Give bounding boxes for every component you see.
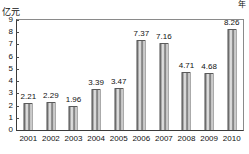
bar-value-label: 7.37 <box>134 30 150 38</box>
y-tick-label: 6 <box>1 53 13 61</box>
bar <box>137 40 146 130</box>
bar-slot: 3.39 <box>85 20 108 130</box>
bar-value-label: 2.21 <box>21 93 37 101</box>
bar <box>205 73 214 130</box>
bar-value-label: 4.71 <box>179 62 195 70</box>
bar-slot: 7.16 <box>153 20 176 130</box>
x-tick-label: 2001 <box>17 134 40 143</box>
y-tick-label: 4 <box>1 77 13 85</box>
y-tick-label: 9 <box>1 16 13 24</box>
bar-slot: 2.29 <box>40 20 63 130</box>
bar <box>24 103 33 130</box>
bar-series: 2.212.291.963.393.477.377.164.714.688.26 <box>17 20 243 130</box>
bar-slot: 8.26 <box>220 20 243 130</box>
bar-slot: 3.47 <box>107 20 130 130</box>
bar <box>69 106 78 130</box>
bar-value-label: 3.47 <box>111 78 127 86</box>
bar-slot: 2.21 <box>17 20 40 130</box>
x-tick-label: 2008 <box>175 134 198 143</box>
bar-chart: 亿元 0123456789 2.212.291.963.393.477.377.… <box>0 0 249 154</box>
x-tick-label: 2002 <box>40 134 63 143</box>
bar-value-label: 8.26 <box>224 19 240 27</box>
bar-slot: 4.68 <box>198 20 221 130</box>
bar <box>182 72 191 130</box>
x-tick-label: 2003 <box>62 134 85 143</box>
x-tick-label: 2007 <box>153 134 176 143</box>
y-tick-label: 7 <box>1 40 13 48</box>
x-tick-label: 2005 <box>107 134 130 143</box>
bar <box>114 88 123 130</box>
bar-value-label: 7.16 <box>156 33 172 41</box>
bar-slot: 1.96 <box>62 20 85 130</box>
bar <box>92 89 101 130</box>
y-tick-label: 2 <box>1 102 13 110</box>
bar-slot: 4.71 <box>175 20 198 130</box>
bar <box>159 43 168 131</box>
y-tick-label: 5 <box>1 65 13 73</box>
x-tick-label: 2009 <box>198 134 221 143</box>
chart-title-cropped <box>0 0 249 8</box>
bar-value-label: 4.68 <box>201 63 217 71</box>
x-tick-label: 2010 <box>220 134 243 143</box>
x-tick-label: 2004 <box>85 134 108 143</box>
x-tick-label: 2006 <box>130 134 153 143</box>
y-tick-label: 1 <box>1 114 13 122</box>
y-tick-label: 8 <box>1 28 13 36</box>
bar <box>46 102 55 130</box>
y-tick-label: 0 <box>1 126 13 134</box>
x-axis-tick-labels: 2001200220032004200520062007200820092010 <box>17 134 243 148</box>
bar-value-label: 3.39 <box>88 79 104 87</box>
bar-value-label: 1.96 <box>66 96 82 104</box>
bar-value-label: 2.29 <box>43 92 59 100</box>
bar <box>227 29 236 130</box>
y-tick-label: 3 <box>1 89 13 97</box>
x-axis-unit-label: 年 <box>238 0 246 9</box>
bar-slot: 7.37 <box>130 20 153 130</box>
